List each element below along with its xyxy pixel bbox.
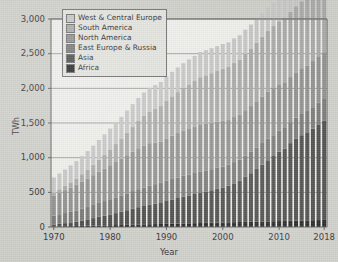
legend-swatch-icon	[66, 34, 75, 43]
bar-segment	[322, 0, 326, 52]
bar-segment	[226, 42, 230, 67]
bar-segment	[249, 49, 253, 107]
bar-segment	[102, 168, 106, 201]
bar-segment	[204, 223, 208, 227]
bar-segment	[294, 72, 298, 117]
bar-segment	[294, 118, 298, 139]
bar-segment	[221, 187, 225, 222]
bar-segment	[215, 46, 219, 71]
bar-segment	[181, 88, 185, 130]
bar-segment	[80, 156, 84, 174]
bar-segment	[283, 18, 287, 82]
bar-segment	[57, 189, 61, 192]
bar-segment	[131, 104, 135, 126]
bar-segment	[108, 199, 112, 214]
bar-segment	[288, 221, 292, 227]
bar-segment	[159, 82, 163, 106]
bar-segment	[159, 182, 163, 202]
bar-segment	[52, 195, 56, 215]
bar-segment	[204, 192, 208, 223]
bar-segment	[142, 145, 146, 187]
bar-segment	[193, 81, 197, 126]
bar-segment	[260, 37, 264, 97]
bar-segment	[69, 222, 73, 226]
bar-segment	[322, 52, 326, 99]
bar-segment	[271, 26, 275, 88]
bar-segment	[249, 25, 253, 49]
bar-segment	[266, 31, 270, 92]
bar-segment	[198, 124, 202, 171]
bar-segment	[142, 116, 146, 146]
x-tick-label: 2010	[268, 232, 290, 242]
bar-segment	[108, 214, 112, 225]
bar-segment	[176, 92, 180, 133]
bar-segment	[74, 210, 78, 221]
bar-segment	[86, 170, 90, 179]
bar-segment	[277, 0, 281, 21]
bar-segment	[277, 131, 281, 152]
bar-segment	[176, 224, 180, 227]
bar-segment	[288, 143, 292, 221]
legend-label: North America	[78, 33, 132, 43]
bar-segment	[159, 202, 163, 224]
y-tick-label: 2,000	[0, 83, 45, 93]
bar-segment	[86, 151, 90, 170]
bar-segment	[108, 149, 112, 165]
bar-segment	[187, 174, 191, 195]
bar-segment	[102, 134, 106, 154]
bar-segment	[153, 204, 157, 225]
bar-segment	[221, 69, 225, 121]
bar-segment	[136, 207, 140, 224]
bar-segment	[187, 59, 191, 84]
bar-segment	[108, 129, 112, 150]
legend-item: West & Central Europe	[66, 13, 162, 23]
bar-segment	[317, 56, 321, 102]
bar-segment	[260, 97, 264, 143]
legend-label: West & Central Europe	[78, 13, 162, 23]
bar-segment	[69, 182, 73, 187]
bar-segment	[210, 223, 214, 227]
bar-segment	[283, 128, 287, 149]
bar-segment	[119, 212, 123, 225]
legend-swatch-icon	[66, 54, 75, 63]
bar-segment	[102, 155, 106, 169]
bar-segment	[142, 206, 146, 224]
bar-segment	[52, 216, 56, 225]
bar-segment	[148, 88, 152, 112]
bar-segment	[193, 194, 197, 223]
bar-segment	[243, 110, 247, 155]
bar-segment	[238, 35, 242, 59]
bar-segment	[305, 220, 309, 227]
bar-segment	[317, 220, 321, 227]
bar-segment	[148, 186, 152, 205]
legend-label: Africa	[78, 63, 99, 73]
bar-segment	[142, 187, 146, 206]
bar-segment	[221, 121, 225, 167]
bar-segment	[255, 222, 259, 227]
bar-segment	[181, 223, 185, 227]
bar-segment	[52, 225, 56, 227]
bar-segment	[294, 0, 298, 6]
bar-segment	[74, 185, 78, 211]
bar-segment	[119, 195, 123, 211]
bar-segment	[322, 99, 326, 121]
bar-segment	[305, 132, 309, 220]
bar-segment	[187, 223, 191, 227]
bar-segment	[114, 197, 118, 213]
bar-segment	[271, 156, 275, 221]
bar-segment	[164, 77, 168, 101]
bar-segment	[159, 142, 163, 183]
bar-segment	[288, 0, 292, 12]
y-tick-label: 2,500	[0, 48, 45, 58]
bar-segment	[108, 165, 112, 199]
bar-segment	[97, 140, 101, 160]
legend-item: Africa	[66, 63, 162, 73]
bar-segment	[215, 223, 219, 227]
bar-segment	[198, 171, 202, 192]
bar-segment	[125, 111, 129, 133]
bar-segment	[210, 123, 214, 169]
bar-segment	[57, 224, 61, 227]
bar-segment	[170, 136, 174, 179]
bar-segment	[260, 165, 264, 222]
bar-segment	[131, 209, 135, 225]
